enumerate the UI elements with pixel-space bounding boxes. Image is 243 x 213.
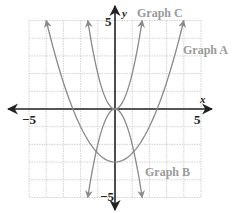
x-min-tick-label: −5: [22, 112, 36, 127]
x-axis-label: x: [199, 93, 206, 105]
axes: [8, 6, 212, 210]
x-max-tick-label: 5: [194, 112, 201, 127]
y-axis-label: y: [120, 7, 127, 19]
graph-c-label: Graph C: [137, 6, 183, 20]
y-min-tick-label: −5: [100, 189, 114, 204]
labels: 5 y x −5 5 −5 Graph C Graph A Graph B: [22, 6, 228, 204]
graph-b-label: Graph B: [145, 165, 190, 179]
y-max-tick-label: 5: [105, 14, 112, 29]
parabola-chart: 5 y x −5 5 −5 Graph C Graph A Graph B: [0, 0, 243, 213]
graph-a-label: Graph A: [183, 43, 228, 57]
